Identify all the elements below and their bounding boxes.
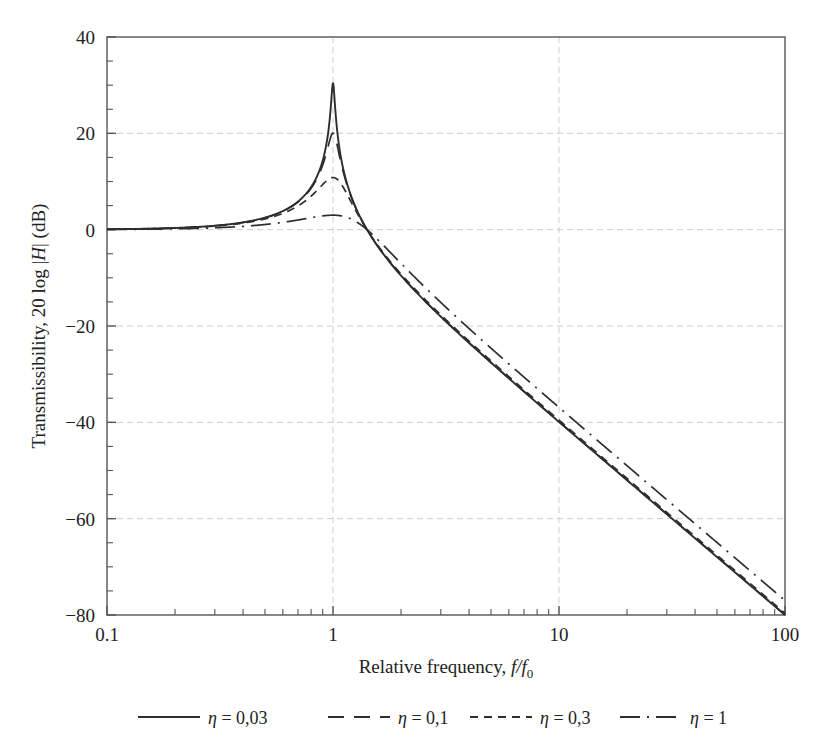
transmissibility-chart-figure: 0.1110100 −80−60−40−2002040 Relative fre…	[0, 0, 834, 752]
y-axis-title-suffix: | (dB)	[28, 204, 50, 247]
legend-label-3: η = 1	[690, 708, 727, 728]
y-tick-label: 40	[76, 27, 95, 48]
legend-eta-value: = 0,3	[549, 708, 591, 728]
y-axis-title: Transmissibility, 20 log |H| (dB)	[28, 204, 50, 449]
y-tick-label: −40	[65, 412, 95, 433]
y-tick-label: −80	[65, 605, 95, 626]
y-axis-title-H: H	[28, 246, 49, 262]
legend-label-0: η = 0,03	[208, 708, 268, 728]
legend-eta-value: = 1	[699, 708, 727, 728]
x-tick-label: 100	[771, 624, 800, 645]
legend-eta-symbol: η	[690, 708, 699, 728]
x-tick-label: 0.1	[95, 624, 119, 645]
legend-eta-value: = 0,1	[407, 708, 449, 728]
y-tick-label: 0	[86, 220, 96, 241]
x-tick-label: 10	[550, 624, 569, 645]
y-tick-label: 20	[76, 123, 95, 144]
chart-canvas: 0.1110100 −80−60−40−2002040 Relative fre…	[0, 0, 834, 752]
legend-label-2: η = 0,3	[540, 708, 591, 728]
legend-eta-symbol: η	[398, 708, 407, 728]
legend-eta-symbol: η	[208, 708, 217, 728]
y-tick-label: −60	[65, 509, 95, 530]
y-axis-title-prefix: Transmissibility, 20 log |	[28, 261, 49, 449]
x-axis-title-sub0: 0	[527, 666, 534, 681]
x-axis-title-prefix: Relative frequency,	[359, 656, 511, 677]
figure-background	[0, 0, 834, 752]
legend-label-1: η = 0,1	[398, 708, 449, 728]
y-tick-label: −20	[65, 316, 95, 337]
x-tick-label: 1	[328, 624, 338, 645]
legend-eta-value: = 0,03	[217, 708, 268, 728]
legend-eta-symbol: η	[540, 708, 549, 728]
